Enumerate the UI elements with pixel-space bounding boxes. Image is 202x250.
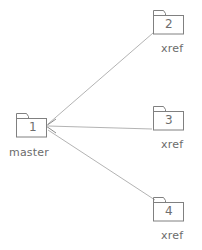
folder-number-master: 1 (29, 121, 37, 133)
node-label-xref-3: xref (161, 138, 183, 151)
connector-master-to-xref-3 (48, 126, 152, 129)
connector-master-to-xref-2 (48, 33, 153, 124)
node-xref-4[interactable]: 4 (152, 196, 186, 223)
folder-number-xref-4: 4 (165, 205, 173, 217)
node-label-xref-4: xref (161, 229, 183, 242)
node-label-xref-2: xref (161, 42, 183, 55)
node-label-master: master (9, 146, 49, 159)
node-xref-3[interactable]: 3 (152, 105, 186, 132)
node-xref-2[interactable]: 2 (152, 9, 186, 36)
folder-number-xref-2: 2 (165, 18, 173, 30)
folder-number-xref-3: 3 (165, 114, 173, 126)
connector-master-to-xref-4 (48, 130, 155, 200)
node-master[interactable]: 1 (15, 112, 49, 139)
diagram-canvas: 1 master 2 xref 3 xref 4 xref (0, 0, 202, 250)
